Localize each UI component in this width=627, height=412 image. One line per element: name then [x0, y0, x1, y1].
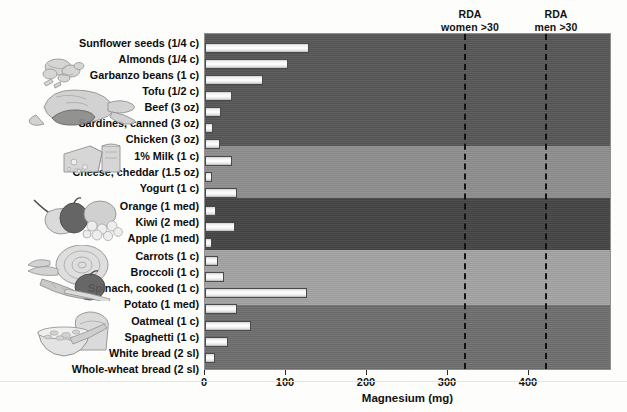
bar-almonds: [205, 59, 288, 69]
xtick-0: [204, 370, 205, 375]
category-label-chicken: Chicken (3 oz): [126, 134, 199, 145]
bar-apple: [205, 238, 212, 248]
bar-cheese-cheddar: [205, 172, 212, 182]
cheese-and-milk-illustration: [58, 140, 124, 178]
poultry-and-meat-illustration: [22, 85, 138, 131]
category-label-carrots: Carrots (1 c): [135, 251, 199, 262]
rda-men-annotation: RDA men >30: [498, 8, 614, 33]
category-label-broccoli: Broccoli (1 c): [131, 267, 199, 278]
category-label-almonds: Almonds (1/4 c): [119, 54, 199, 65]
category-label-beef: Beef (3 oz): [144, 102, 199, 113]
xtick-100: [285, 370, 286, 375]
bar-whole-wheat-bread: [205, 369, 247, 370]
category-label-sunflower-seeds: Sunflower seeds (1/4 c): [79, 38, 199, 49]
bar-spinach-cooked: [205, 288, 307, 298]
category-label-apple: Apple (1 med): [128, 233, 199, 244]
bar-oatmeal: [205, 321, 251, 331]
band-dairy: [205, 146, 610, 198]
rda-women-line: [464, 34, 466, 369]
bar-beef: [205, 107, 221, 117]
band-fruits: [205, 198, 610, 250]
bar-orange: [205, 206, 216, 216]
fruits-illustration: [30, 196, 136, 244]
page-scan-artifact-1: [0, 382, 627, 391]
bar-yogurt: [205, 188, 237, 198]
bar-sunflower-seeds: [205, 43, 309, 53]
plot-area: [204, 33, 611, 370]
category-label-kiwi: Kiwi (2 med): [135, 217, 199, 228]
rda-men-line2: men >30: [498, 21, 614, 34]
xtick-200: [366, 370, 367, 375]
bar-kiwi: [205, 222, 235, 232]
bread-and-cereal-illustration: [30, 308, 138, 364]
rda-men-line1: RDA: [498, 8, 614, 21]
category-label-tofu: Tofu (1/2 c): [142, 86, 199, 97]
bar-potato: [205, 304, 237, 314]
category-label-oatmeal: Oatmeal (1 c): [131, 316, 199, 327]
rda-men-line: [545, 34, 547, 369]
bar-garbanzo-beans: [205, 75, 263, 85]
xtick-400: [528, 370, 529, 375]
bar-sardines: [205, 123, 213, 133]
bar-milk: [205, 156, 232, 166]
band-grains: [205, 305, 610, 370]
category-label-garbanzo-beans: Garbanzo beans (1 c): [90, 70, 199, 81]
bar-white-bread: [205, 353, 215, 363]
xtick-300: [447, 370, 448, 375]
category-label-whole-wheat-bread: Whole-wheat bread (2 sl): [72, 364, 199, 375]
bar-tofu: [205, 91, 232, 101]
magnesium-content-chart-figure: RDA women >30 RDA men >30: [0, 0, 627, 412]
category-label-milk: 1% Milk (1 c): [134, 151, 199, 162]
category-label-yogurt: Yogurt (1 c): [140, 183, 199, 194]
bar-carrots: [205, 256, 218, 266]
bar-chicken: [205, 139, 220, 149]
x-axis-title: Magnesium (mg): [204, 392, 611, 404]
bar-spaghetti: [205, 337, 228, 347]
bar-broccoli: [205, 272, 224, 282]
vegetables-illustration: [20, 245, 140, 301]
